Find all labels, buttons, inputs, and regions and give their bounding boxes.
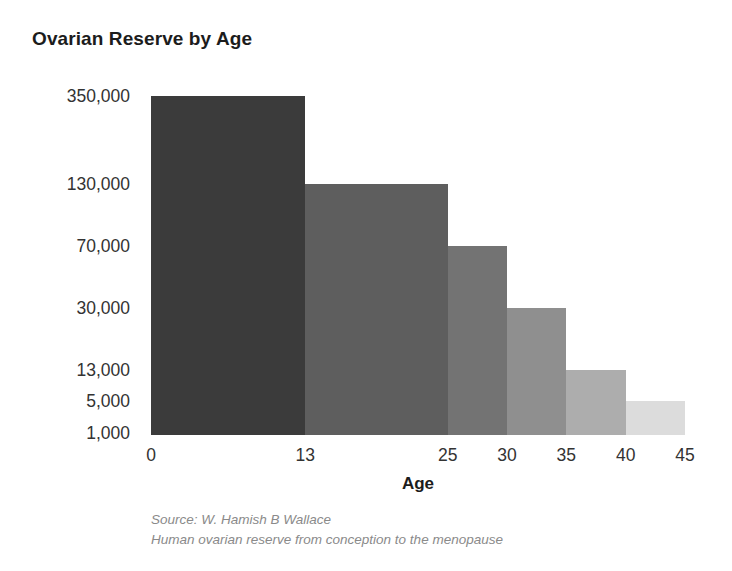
- chart-container: Ovarian Reserve by Age 350,000130,00070,…: [0, 0, 732, 571]
- x-tick-label: 35: [557, 445, 576, 466]
- x-tick-label: 45: [675, 445, 694, 466]
- source-line-2: Human ovarian reserve from conception to…: [151, 530, 503, 550]
- x-tick-label: 30: [497, 445, 516, 466]
- x-tick-label: 25: [438, 445, 457, 466]
- x-tick-label: 0: [146, 445, 156, 466]
- x-tick-label: 13: [296, 445, 315, 466]
- x-tick-label: 40: [616, 445, 635, 466]
- x-axis: 0132530354045: [0, 0, 732, 571]
- source-line-1: Source: W. Hamish B Wallace: [151, 510, 503, 530]
- source-note: Source: W. Hamish B Wallace Human ovaria…: [151, 510, 503, 549]
- x-axis-title: Age: [402, 474, 434, 494]
